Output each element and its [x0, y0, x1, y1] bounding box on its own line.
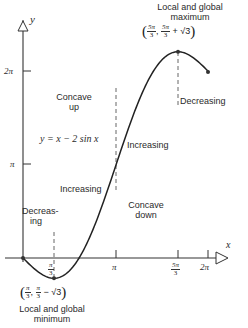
- maximum-point: [176, 50, 180, 54]
- concave-up-label: Concave up: [52, 92, 96, 112]
- increasing-label-1: Increasing: [60, 184, 102, 194]
- start-point: [21, 256, 25, 260]
- y-axis-arrow-icon: [18, 21, 28, 31]
- function-curve: [23, 52, 209, 279]
- x-axis-arrow-icon: [216, 252, 228, 264]
- x-tick-label-2pi: 2π: [200, 262, 209, 272]
- concave-down-label: Concave down: [124, 200, 168, 220]
- y-tick-label-2pi: 2π: [4, 66, 13, 76]
- increasing-label-2: Increasing: [127, 140, 169, 150]
- equation-label: y = x − 2 sin x: [40, 134, 98, 144]
- decreasing-right-label: Decreasing: [180, 96, 226, 106]
- max-coordinates: (5π3, 5π3 + √3): [142, 23, 195, 40]
- end-point: [206, 70, 210, 74]
- y-axis-label: y: [30, 14, 35, 24]
- max-title: Local and global maximum: [150, 2, 230, 22]
- decreasing-left-label: Decreas- ing: [22, 206, 59, 226]
- graph-canvas: [0, 0, 248, 328]
- min-title: Local and global minimum: [12, 304, 92, 324]
- x-tick-label-pi: π: [112, 262, 117, 272]
- min-coordinates: (π3, π3 − √3): [20, 284, 66, 301]
- y-tick-label-pi: π: [10, 159, 15, 169]
- x-tick-label-pi3: π3: [48, 262, 54, 277]
- x-axis-label: x: [226, 240, 230, 250]
- x-tick-label-5pi3: 5π3: [171, 262, 180, 277]
